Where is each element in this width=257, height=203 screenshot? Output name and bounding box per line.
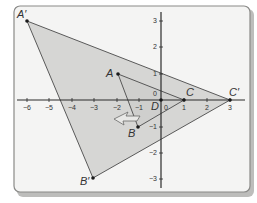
svg-text:0: 0 xyxy=(153,90,157,97)
svg-text:0: 0 xyxy=(164,104,168,111)
svg-text:2: 2 xyxy=(205,104,209,111)
label-a-prime: A′ xyxy=(16,8,27,20)
dilation-diagram: −6 −5 −4 −3 −2 −1 0 1 2 3 3 2 1 0 −1 −2 … xyxy=(0,0,257,203)
svg-text:3: 3 xyxy=(228,104,232,111)
label-b-prime: B′ xyxy=(80,175,90,187)
svg-text:1: 1 xyxy=(182,104,186,111)
point-c-prime xyxy=(228,98,232,102)
point-d-center xyxy=(159,98,163,102)
svg-text:−5: −5 xyxy=(45,104,53,111)
svg-text:−3: −3 xyxy=(149,175,157,182)
point-b xyxy=(136,125,140,129)
svg-text:−1: −1 xyxy=(149,123,157,130)
svg-text:−3: −3 xyxy=(90,104,98,111)
svg-text:−2: −2 xyxy=(149,149,157,156)
svg-text:2: 2 xyxy=(153,43,157,50)
svg-text:−1: −1 xyxy=(135,104,143,111)
label-d: D xyxy=(151,100,159,112)
label-c-prime: C′ xyxy=(229,86,240,98)
label-b: B xyxy=(128,127,135,139)
point-a xyxy=(116,72,120,76)
point-c xyxy=(182,98,186,102)
svg-text:1: 1 xyxy=(153,70,157,77)
label-c: C xyxy=(186,86,194,98)
svg-text:3: 3 xyxy=(153,17,157,24)
label-a: A xyxy=(105,67,113,79)
point-b-prime xyxy=(91,176,95,180)
svg-text:−2: −2 xyxy=(113,104,121,111)
svg-text:−6: −6 xyxy=(23,104,31,111)
svg-text:−4: −4 xyxy=(68,104,76,111)
